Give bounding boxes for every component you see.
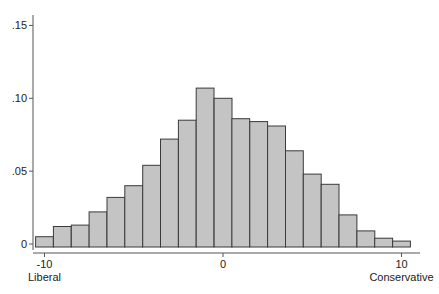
histogram-bar	[107, 197, 125, 247]
y-tick-label: 0	[21, 238, 27, 250]
liberal-label: Liberal	[28, 271, 61, 283]
histogram-bar	[357, 231, 375, 247]
histogram-bar	[71, 225, 89, 247]
histogram-bar	[250, 122, 268, 247]
histogram-bar	[339, 215, 357, 247]
histogram-bar	[375, 238, 393, 247]
histogram-bar	[286, 151, 304, 247]
histogram-bar	[53, 227, 71, 248]
x-tick-label: 0	[220, 258, 226, 270]
histogram-bar	[143, 165, 161, 247]
histogram-bar	[36, 237, 54, 247]
histogram-bar	[178, 120, 196, 247]
histogram-bar	[321, 184, 339, 247]
y-tick-label: .05	[12, 165, 27, 177]
histogram-chart: 0.05.10.15 -10Liberal010Conservative	[0, 0, 439, 294]
conservative-label: Conservative	[369, 271, 433, 283]
x-axis-ticks: -10Liberal010Conservative	[28, 253, 434, 283]
histogram-bar	[196, 88, 214, 247]
histogram-bar	[214, 98, 232, 247]
histogram-bar	[161, 139, 179, 247]
histogram-bar	[232, 119, 250, 247]
x-tick-label: -10	[37, 258, 53, 270]
histogram-bars	[36, 88, 411, 247]
histogram-bar	[89, 212, 107, 247]
y-axis-ticks: 0.05.10.15	[12, 19, 33, 250]
histogram-bar	[393, 241, 411, 247]
y-tick-label: .10	[12, 92, 27, 104]
x-tick-label: 10	[395, 258, 407, 270]
histogram-bar	[268, 126, 286, 247]
y-tick-label: .15	[12, 19, 27, 31]
histogram-bar	[303, 174, 321, 247]
histogram-bar	[125, 186, 143, 247]
